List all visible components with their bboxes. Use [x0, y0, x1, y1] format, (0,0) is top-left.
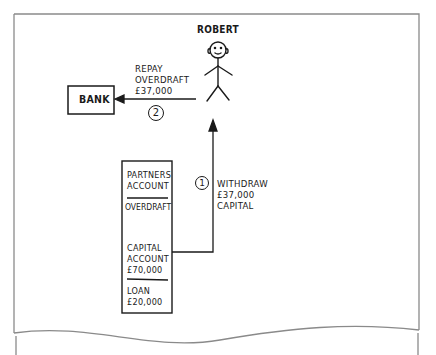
arrow-withdraw-capital	[172, 120, 217, 252]
capital-line: CAPITAL	[127, 243, 162, 254]
step1-line: CAPITAL	[217, 200, 254, 211]
loan-line: £20,000	[127, 297, 163, 308]
arrow-repay-overdraft	[115, 95, 196, 103]
step2-line: REPAY	[135, 63, 163, 74]
overdraft-label: OVERDRAFT	[125, 202, 171, 213]
stick-figure-icon	[205, 42, 232, 101]
account-title-line: ACCOUNT	[127, 181, 169, 192]
step1-line: £37,000	[217, 189, 254, 200]
step2-number-badge: 2	[148, 105, 164, 121]
account-title-line: PARTNERS	[127, 170, 171, 181]
capital-line: £70,000	[127, 265, 163, 276]
bank-label: BANK	[79, 94, 110, 105]
step2-line: £37,000	[135, 85, 172, 96]
step1-line: WITHDRAW	[217, 178, 268, 189]
loan-line: LOAN	[127, 286, 150, 297]
step1-number-badge: 1	[195, 176, 209, 190]
person-label: ROBERT	[197, 24, 239, 35]
step2-line: OVERDRAFT	[135, 74, 189, 85]
capital-line: ACCOUNT	[127, 254, 169, 265]
